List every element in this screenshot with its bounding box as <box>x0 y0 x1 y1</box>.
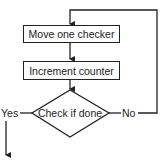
step-move-checker: Move one checker <box>23 25 120 43</box>
step-increment-counter-label: Increment counter <box>29 65 114 77</box>
decision-check-label: Check if done <box>36 107 104 119</box>
no-label: No <box>122 107 135 119</box>
yes-label: Yes <box>1 107 18 119</box>
flowchart-connectors <box>0 0 166 160</box>
step-increment-counter: Increment counter <box>23 61 120 80</box>
step-move-checker-label: Move one checker <box>29 28 115 40</box>
